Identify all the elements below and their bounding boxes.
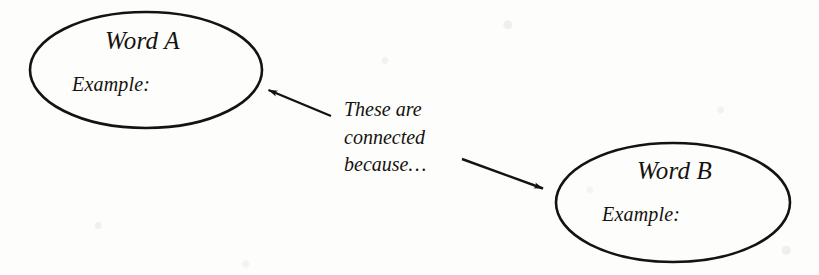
node-title-word-a: Word A bbox=[105, 28, 180, 53]
node-example-word-b: Example: bbox=[602, 204, 680, 224]
connector-caption-line-1: These are bbox=[344, 96, 474, 124]
node-title-word-b: Word B bbox=[637, 158, 712, 183]
connector-caption-line-2: connected bbox=[344, 124, 474, 152]
node-example-word-a: Example: bbox=[72, 74, 150, 94]
connector-caption: These are connected because… bbox=[344, 96, 474, 179]
diagram-canvas: Word A Example: Word B Example: These ar… bbox=[0, 0, 819, 275]
connector-caption-line-3: because… bbox=[344, 151, 474, 179]
arrow-to-word-a bbox=[269, 90, 332, 116]
arrow-to-word-b bbox=[462, 159, 543, 189]
